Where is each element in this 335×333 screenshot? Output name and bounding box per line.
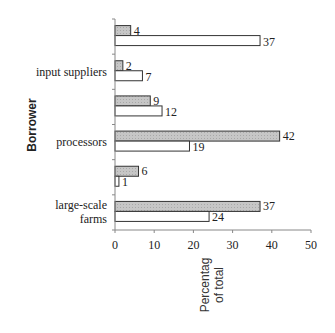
- category-label: large-scale: [55, 198, 107, 212]
- x-tick-label: 30: [227, 238, 239, 252]
- x-axis-label: Percentag of total: [198, 258, 226, 313]
- bars-group: 437279124219613724: [115, 24, 295, 225]
- value-label: 9: [153, 94, 159, 108]
- category-label: input suppliers: [36, 65, 107, 79]
- bar-white: [115, 141, 189, 151]
- value-label: 42: [283, 129, 295, 143]
- x-tick-label: 20: [187, 238, 199, 252]
- value-label: 37: [263, 199, 275, 213]
- x-tick-label: 50: [305, 238, 317, 252]
- value-label: 1: [122, 175, 128, 189]
- bar-white: [115, 176, 119, 186]
- category-label: processors: [56, 135, 107, 149]
- value-label: 6: [142, 164, 148, 178]
- value-label: 7: [145, 70, 151, 84]
- bar-shaded: [115, 61, 123, 71]
- value-label: 2: [126, 59, 132, 73]
- value-label: 37: [263, 35, 275, 49]
- bar-chart: 437279124219613724 input suppliersproces…: [0, 0, 335, 333]
- value-label: 4: [134, 24, 140, 38]
- value-label: 24: [212, 210, 224, 224]
- x-tick-label: 10: [148, 238, 160, 252]
- y-axis-label: Borrower: [25, 98, 39, 152]
- svg-text:Percentag: Percentag: [198, 258, 212, 313]
- svg-text:of total: of total: [212, 267, 226, 303]
- x-tick-label: 40: [266, 238, 278, 252]
- category-label: farms: [80, 212, 108, 226]
- value-label: 19: [192, 140, 204, 154]
- bar-shaded: [115, 96, 150, 106]
- bar-shaded: [115, 26, 131, 36]
- value-label: 12: [165, 105, 177, 119]
- bar-white: [115, 211, 209, 221]
- x-tick-label: 0: [112, 238, 118, 252]
- bar-shaded: [115, 201, 260, 211]
